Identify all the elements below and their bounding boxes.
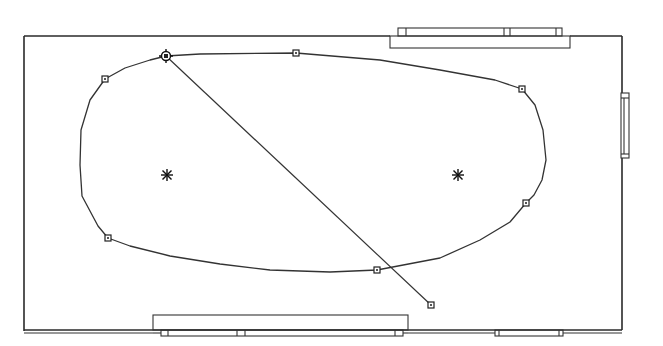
control-point-dot xyxy=(107,237,109,239)
guide-line[interactable] xyxy=(166,56,431,305)
control-point-dot xyxy=(525,202,527,204)
control-point-dot xyxy=(104,78,106,80)
right-window[interactable] xyxy=(621,93,629,158)
control-point-dot xyxy=(295,52,297,54)
focus-marker-f1[interactable] xyxy=(161,169,173,181)
room-walls xyxy=(24,36,622,333)
control-point-dot xyxy=(376,269,378,271)
closed-spline-curve[interactable] xyxy=(80,53,546,272)
control-point-dot xyxy=(521,88,523,90)
control-point-dot xyxy=(430,304,432,306)
drawing-canvas[interactable] xyxy=(0,0,663,346)
bottom-left-window[interactable] xyxy=(153,315,408,336)
selected-point-dot xyxy=(164,54,168,58)
top-window-sill xyxy=(390,36,570,48)
control-points xyxy=(102,50,529,308)
focus-marker-f2[interactable] xyxy=(452,169,464,181)
bottom-left-window-sill xyxy=(153,315,408,330)
bottom-right-window-frame xyxy=(495,330,563,336)
top-window[interactable] xyxy=(390,28,570,48)
bottom-left-window-frame xyxy=(161,330,403,336)
floor-plan-drawing xyxy=(0,0,663,346)
right-window-frame xyxy=(621,93,629,158)
top-window-frame xyxy=(398,28,562,36)
bottom-right-window[interactable] xyxy=(495,330,563,336)
